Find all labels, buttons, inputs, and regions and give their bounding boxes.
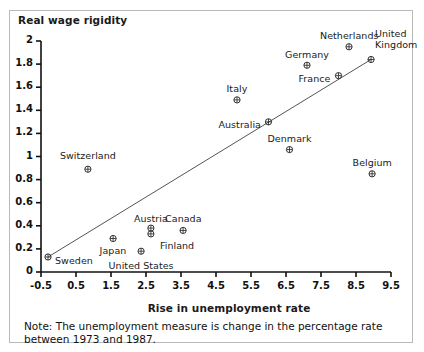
x-axis-title: Rise in unemployment rate: [0, 302, 424, 314]
point-label: Italy: [227, 83, 248, 94]
data-point-australia[interactable]: [265, 119, 271, 125]
data-point-sweden[interactable]: [45, 254, 51, 260]
y-tick-label: 0.4: [0, 219, 33, 230]
scatter-plot: Real wage rigidity 00.20.40.60.811.21.41…: [0, 0, 424, 352]
data-point-france[interactable]: [335, 73, 341, 79]
point-label: Germany: [285, 49, 329, 60]
point-label: Japan: [100, 245, 127, 256]
point-label: Sweden: [55, 255, 93, 266]
y-tick-label: 1.2: [0, 126, 33, 137]
y-tick-label: 0.6: [0, 196, 33, 207]
y-tick-label: 1: [0, 150, 33, 161]
data-point-finland[interactable]: [148, 231, 154, 237]
point-label: United States: [109, 260, 174, 271]
point-label: Denmark: [268, 133, 312, 144]
data-point-austria[interactable]: [148, 225, 154, 231]
data-point-netherlands[interactable]: [346, 44, 352, 50]
data-point-belgium[interactable]: [369, 171, 375, 177]
y-tick-label: 1.6: [0, 80, 33, 91]
figure-container: Real wage rigidity 00.20.40.60.811.21.41…: [0, 0, 424, 352]
point-label: Switzerland: [60, 150, 116, 161]
y-tick-label: 0.8: [0, 173, 33, 184]
y-tick-label: 0.2: [0, 242, 33, 253]
y-tick-label: 2: [0, 34, 33, 45]
data-point-united-states[interactable]: [138, 248, 144, 254]
data-point-italy[interactable]: [234, 97, 240, 103]
point-label: Canada: [165, 213, 201, 224]
data-point-switzerland[interactable]: [85, 166, 91, 172]
x-tick-label: 9.5: [366, 280, 416, 291]
y-tick-label: 1.8: [0, 57, 33, 68]
y-tick-label: 1.4: [0, 103, 33, 114]
data-point-united-kingdom[interactable]: [368, 56, 374, 62]
data-point-denmark[interactable]: [286, 146, 292, 152]
point-label: Finland: [160, 240, 194, 251]
data-point-germany[interactable]: [304, 62, 310, 68]
point-label: Australia: [219, 119, 261, 130]
figure-note: Note: The unemployment measure is change…: [24, 320, 410, 346]
point-label-line: United: [375, 28, 417, 39]
data-point-canada[interactable]: [180, 227, 186, 233]
point-label: UnitedKingdom: [375, 28, 417, 50]
data-point-japan[interactable]: [110, 235, 116, 241]
point-label: Austria: [134, 213, 168, 224]
point-label: Belgium: [353, 157, 392, 168]
point-label: France: [299, 73, 331, 84]
chart-canvas: [0, 0, 424, 352]
point-label: Netherlands: [320, 30, 378, 41]
point-label-line: Kingdom: [375, 39, 417, 50]
y-tick-label: 0: [0, 265, 33, 276]
